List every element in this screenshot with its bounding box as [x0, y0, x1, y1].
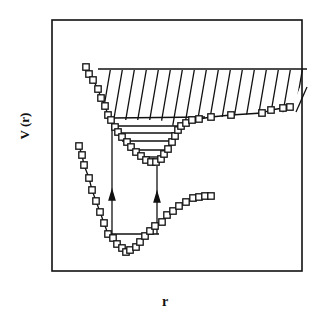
data-marker — [98, 95, 104, 101]
potential-energy-diagram — [0, 0, 319, 316]
data-marker — [280, 105, 286, 111]
data-marker — [76, 143, 82, 149]
data-marker — [101, 220, 107, 226]
data-marker — [95, 86, 101, 92]
data-marker — [83, 64, 89, 70]
data-marker — [183, 199, 189, 205]
data-marker — [208, 114, 214, 120]
data-marker — [287, 104, 293, 110]
x-axis-label: r — [162, 294, 168, 310]
transition-arrows — [109, 122, 160, 234]
data-marker — [189, 117, 195, 123]
data-marker — [81, 162, 87, 168]
data-marker — [228, 112, 234, 118]
data-marker — [97, 209, 103, 215]
data-marker — [159, 219, 165, 225]
data-marker — [89, 187, 95, 193]
data-marker — [108, 117, 114, 123]
data-marker — [90, 77, 96, 83]
data-marker — [86, 175, 92, 181]
data-marker — [268, 107, 274, 113]
data-marker — [176, 203, 182, 209]
data-marker — [152, 223, 158, 229]
data-marker — [93, 198, 99, 204]
plot-frame — [52, 20, 302, 271]
y-axis-label: V (r) — [17, 113, 33, 140]
data-marker — [79, 152, 85, 158]
data-marker — [208, 193, 214, 199]
data-marker — [196, 116, 202, 122]
data-marker — [259, 110, 265, 116]
data-marker — [102, 103, 108, 109]
data-marker — [165, 146, 171, 152]
